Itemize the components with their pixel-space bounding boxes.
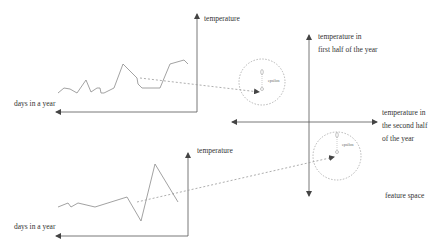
feature-x-label-line3: of the year — [382, 133, 414, 144]
top-temperature-series — [58, 60, 188, 93]
feature-y-label-line1: temperature in — [318, 31, 362, 42]
feature-x-label-line2: the second half — [382, 120, 427, 131]
epsilon-label-1: epsilon — [268, 78, 280, 83]
feature-x-label-line1: temperature in — [382, 107, 426, 118]
mapping-line-top — [140, 78, 259, 92]
feature-y-label-line2: first half of the year — [318, 44, 378, 55]
top-chart-axes — [56, 14, 197, 112]
epsilon-label-2: epsilon — [342, 142, 354, 147]
bottom-x-axis-label: days in a year — [14, 221, 55, 232]
mapping-line-bottom — [137, 157, 334, 202]
top-x-axis-label: days in a year — [14, 98, 55, 109]
feature-space-caption: feature space — [385, 190, 424, 201]
epsilon-circle-2 — [313, 132, 361, 180]
bottom-y-axis-label: temperature — [197, 145, 233, 156]
top-y-axis-label: temperature — [204, 13, 240, 24]
feature-space-axes — [232, 35, 377, 196]
bottom-temperature-series — [58, 164, 178, 221]
diagram-canvas — [0, 0, 443, 251]
